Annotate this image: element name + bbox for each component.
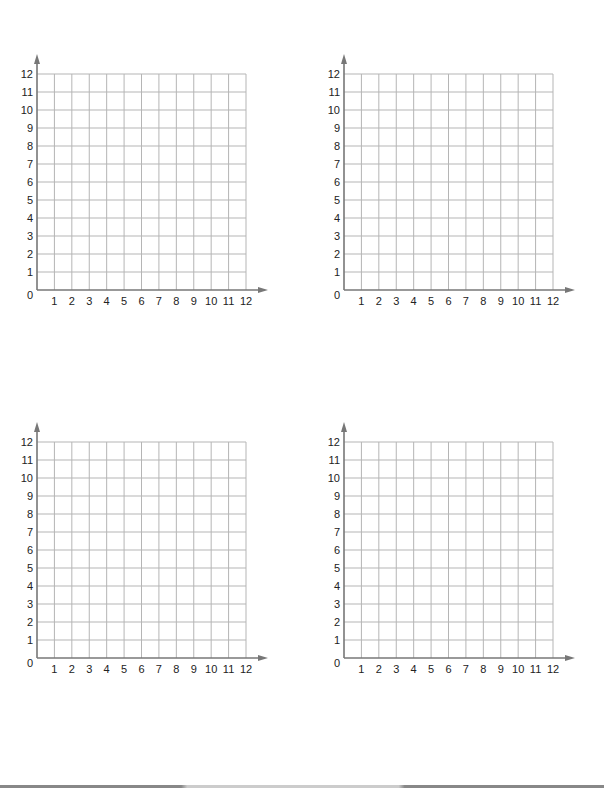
svg-text:9: 9 — [191, 663, 197, 675]
svg-text:7: 7 — [156, 663, 162, 675]
svg-text:10: 10 — [512, 295, 524, 307]
svg-text:6: 6 — [138, 295, 144, 307]
svg-text:4: 4 — [334, 212, 340, 224]
svg-text:4: 4 — [104, 663, 110, 675]
svg-text:11: 11 — [329, 86, 340, 98]
svg-text:2: 2 — [376, 295, 382, 307]
svg-text:0: 0 — [27, 657, 33, 669]
svg-text:12: 12 — [328, 436, 340, 448]
svg-text:4: 4 — [334, 580, 340, 592]
svg-text:3: 3 — [393, 295, 399, 307]
svg-text:1: 1 — [27, 634, 33, 646]
svg-text:1: 1 — [358, 663, 364, 675]
svg-text:6: 6 — [445, 295, 451, 307]
svg-text:1: 1 — [334, 634, 340, 646]
svg-text:11: 11 — [530, 295, 541, 307]
svg-text:1: 1 — [334, 266, 340, 278]
svg-text:9: 9 — [498, 663, 504, 675]
svg-text:9: 9 — [27, 490, 33, 502]
svg-text:8: 8 — [334, 508, 340, 520]
svg-text:11: 11 — [530, 663, 541, 675]
svg-text:12: 12 — [240, 663, 252, 675]
svg-text:0: 0 — [334, 289, 340, 301]
svg-text:2: 2 — [376, 663, 382, 675]
svg-text:11: 11 — [22, 86, 33, 98]
svg-text:4: 4 — [411, 663, 417, 675]
svg-text:2: 2 — [334, 616, 340, 628]
svg-text:11: 11 — [223, 663, 234, 675]
svg-text:0: 0 — [334, 657, 340, 669]
svg-text:0: 0 — [27, 289, 33, 301]
svg-text:5: 5 — [121, 663, 127, 675]
svg-text:5: 5 — [428, 663, 434, 675]
coordinate-grid-4: 1234567891011121234567891011120 — [307, 418, 604, 678]
svg-text:6: 6 — [334, 176, 340, 188]
page-bottom-rule — [0, 785, 604, 788]
svg-text:10: 10 — [205, 295, 217, 307]
svg-text:7: 7 — [27, 526, 33, 538]
svg-text:3: 3 — [86, 295, 92, 307]
svg-text:3: 3 — [334, 598, 340, 610]
svg-text:7: 7 — [463, 663, 469, 675]
svg-text:12: 12 — [240, 295, 252, 307]
svg-text:10: 10 — [21, 104, 33, 116]
svg-text:7: 7 — [156, 295, 162, 307]
svg-text:12: 12 — [547, 663, 559, 675]
svg-text:3: 3 — [86, 663, 92, 675]
svg-text:1: 1 — [51, 663, 57, 675]
svg-text:9: 9 — [334, 490, 340, 502]
svg-text:11: 11 — [22, 454, 33, 466]
svg-text:2: 2 — [27, 248, 33, 260]
svg-text:3: 3 — [27, 230, 33, 242]
svg-text:5: 5 — [334, 562, 340, 574]
svg-text:4: 4 — [27, 580, 33, 592]
svg-text:8: 8 — [334, 140, 340, 152]
svg-text:7: 7 — [334, 526, 340, 538]
svg-text:12: 12 — [21, 436, 33, 448]
svg-text:8: 8 — [173, 663, 179, 675]
svg-text:7: 7 — [334, 158, 340, 170]
svg-text:6: 6 — [445, 663, 451, 675]
svg-text:1: 1 — [51, 295, 57, 307]
svg-text:6: 6 — [138, 663, 144, 675]
svg-text:9: 9 — [191, 295, 197, 307]
svg-text:10: 10 — [205, 663, 217, 675]
svg-text:11: 11 — [329, 454, 340, 466]
svg-text:4: 4 — [104, 295, 110, 307]
svg-text:9: 9 — [27, 122, 33, 134]
svg-text:5: 5 — [428, 295, 434, 307]
svg-text:2: 2 — [27, 616, 33, 628]
svg-text:9: 9 — [498, 295, 504, 307]
coordinate-grid-2: 1234567891011121234567891011120 — [307, 50, 604, 310]
svg-text:10: 10 — [328, 104, 340, 116]
svg-text:12: 12 — [547, 295, 559, 307]
svg-text:3: 3 — [334, 230, 340, 242]
svg-text:8: 8 — [27, 140, 33, 152]
svg-text:6: 6 — [27, 176, 33, 188]
svg-text:10: 10 — [512, 663, 524, 675]
svg-text:12: 12 — [21, 68, 33, 80]
svg-text:8: 8 — [480, 295, 486, 307]
svg-text:11: 11 — [223, 295, 234, 307]
svg-text:9: 9 — [334, 122, 340, 134]
svg-text:7: 7 — [463, 295, 469, 307]
svg-text:8: 8 — [27, 508, 33, 520]
svg-text:8: 8 — [480, 663, 486, 675]
svg-text:12: 12 — [328, 68, 340, 80]
svg-text:3: 3 — [27, 598, 33, 610]
svg-text:10: 10 — [21, 472, 33, 484]
svg-text:4: 4 — [27, 212, 33, 224]
svg-text:5: 5 — [27, 562, 33, 574]
svg-text:2: 2 — [69, 295, 75, 307]
svg-text:1: 1 — [27, 266, 33, 278]
svg-text:10: 10 — [328, 472, 340, 484]
svg-text:3: 3 — [393, 663, 399, 675]
svg-text:6: 6 — [334, 544, 340, 556]
svg-text:5: 5 — [27, 194, 33, 206]
coordinate-grid-3: 1234567891011121234567891011120 — [0, 418, 300, 678]
svg-text:6: 6 — [27, 544, 33, 556]
svg-text:7: 7 — [27, 158, 33, 170]
coordinate-grid-1: 1234567891011121234567891011120 — [0, 50, 300, 310]
svg-text:2: 2 — [69, 663, 75, 675]
svg-text:1: 1 — [358, 295, 364, 307]
